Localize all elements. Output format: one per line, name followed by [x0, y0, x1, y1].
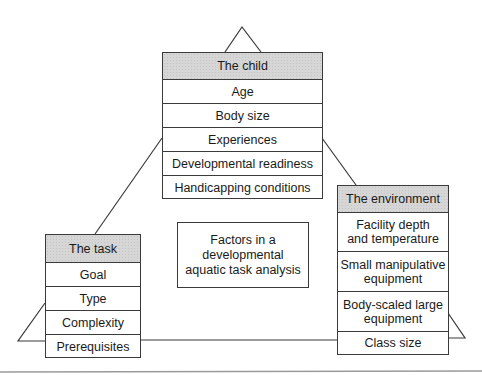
task-item-complexity: Complexity — [46, 310, 140, 334]
environment-item-facility: Facility depth and temperature — [338, 212, 448, 251]
environment-item-facility-line1: Facility depth — [356, 218, 430, 232]
center-label-line3: aquatic task analysis — [185, 263, 300, 278]
child-item-handicapping-conditions: Handicapping conditions — [163, 175, 322, 199]
center-label-box: Factors in a developmental aquatic task … — [177, 222, 309, 288]
task-item-type: Type — [46, 286, 140, 310]
triangle-apex — [225, 27, 261, 52]
environment-factors-box: The environment Facility depth and tempe… — [337, 185, 449, 355]
environment-item-large-equipment-line1: Body-scaled large — [343, 298, 443, 312]
center-label-line2: developmental — [185, 248, 300, 263]
environment-item-facility-line2: and temperature — [347, 232, 439, 246]
triangle-left-edge-upper — [95, 138, 162, 234]
child-item-age: Age — [163, 79, 322, 103]
environment-item-large-equipment-line2: equipment — [364, 312, 422, 326]
task-header: The task — [46, 235, 140, 262]
environment-item-class-size: Class size — [338, 331, 448, 354]
triangle-left-corner — [18, 303, 45, 341]
child-item-body-size: Body size — [163, 103, 322, 127]
environment-item-class-size-line1: Class size — [365, 336, 422, 350]
task-item-goal: Goal — [46, 262, 140, 286]
environment-item-small-equipment-line1: Small manipulative — [341, 258, 446, 272]
child-factors-box: The child Age Body size Experiences Deve… — [162, 52, 323, 199]
environment-item-small-equipment: Small manipulative equipment — [338, 251, 448, 291]
task-item-prerequisites: Prerequisites — [46, 334, 140, 358]
triangle-right-corner — [448, 313, 465, 338]
child-item-experiences: Experiences — [163, 127, 322, 151]
triangle-right-edge-upper — [322, 138, 356, 185]
center-label-line1: Factors in a — [185, 233, 300, 248]
environment-header: The environment — [338, 186, 448, 212]
environment-item-large-equipment: Body-scaled large equipment — [338, 291, 448, 331]
bottom-rule — [0, 371, 482, 372]
child-header: The child — [163, 53, 322, 79]
task-factors-box: The task Goal Type Complexity Prerequisi… — [45, 234, 141, 358]
child-item-developmental-readiness: Developmental readiness — [163, 151, 322, 175]
environment-item-small-equipment-line2: equipment — [364, 272, 422, 286]
